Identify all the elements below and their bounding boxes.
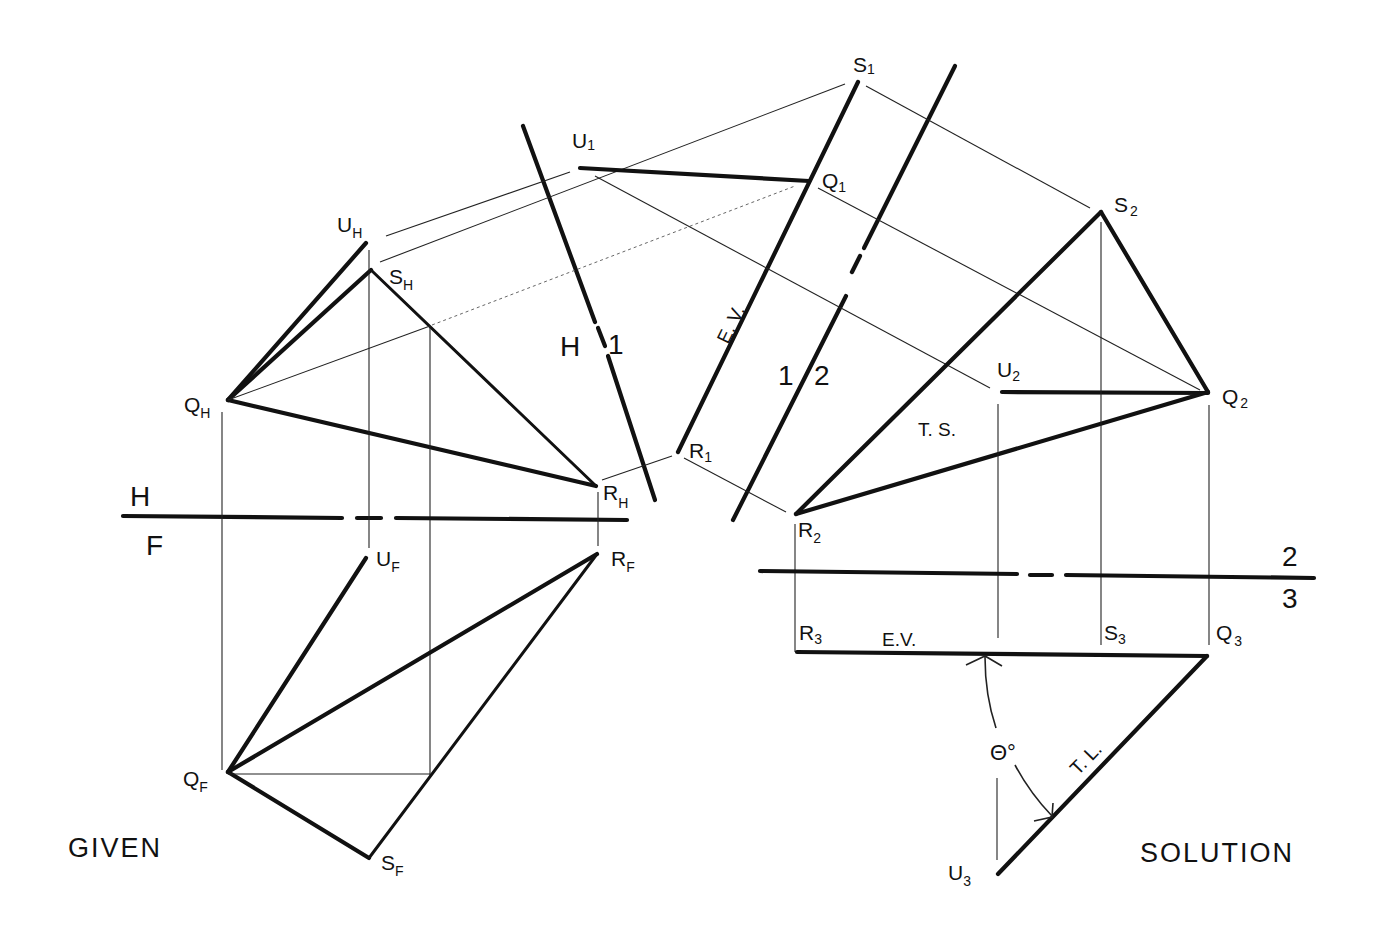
label-qh: QH xyxy=(184,393,210,421)
angle-theta-label: Θ° xyxy=(990,740,1016,765)
arrowhead-up-icon xyxy=(966,656,1002,666)
true-length-label: T. L. xyxy=(1066,738,1106,778)
front-view xyxy=(228,554,597,858)
label-r3: R3 xyxy=(799,621,822,647)
edge-view-r3-q3 xyxy=(797,652,1207,656)
fold-label-f: F xyxy=(146,530,163,561)
edge-s2-q2 xyxy=(1101,212,1208,392)
label-uf: UF xyxy=(376,547,400,575)
fold-label-1: 1 xyxy=(608,329,624,360)
descriptive-geometry-diagram: H F H 1 E. V. 1 xyxy=(0,0,1396,945)
fold-label-2: 2 xyxy=(814,360,830,391)
edge-u2-q2 xyxy=(1002,392,1208,393)
solution-title: SOLUTION xyxy=(1140,838,1294,868)
given-title: GIVEN xyxy=(68,833,162,863)
angle-arc-lower xyxy=(1015,765,1052,816)
label-u1: U1 xyxy=(572,129,595,153)
edge-qh-rh xyxy=(228,400,596,486)
edge-view-label: E.V. xyxy=(882,629,916,650)
label-r2: R2 xyxy=(798,518,821,546)
edge-qf-uf xyxy=(228,558,366,772)
label-r1: R1 xyxy=(689,439,712,465)
label-q1: Q1 xyxy=(822,169,846,195)
fold-line-h-f: H F xyxy=(123,481,627,561)
edge-qf-rf xyxy=(228,554,597,772)
fold-label-h: H xyxy=(560,331,580,362)
horizontal-view xyxy=(228,243,596,775)
edge-view-label: E. V. xyxy=(713,302,749,347)
label-u3: U3 xyxy=(948,861,971,889)
label-uh: UH xyxy=(337,213,362,241)
edge-qf-sf xyxy=(228,772,369,858)
label-s3: S3 xyxy=(1104,621,1126,647)
fold-label-3: 3 xyxy=(1282,583,1298,614)
fold-label-2: 2 xyxy=(1282,541,1298,572)
angle-arc-upper xyxy=(985,657,996,728)
label-s1: S1 xyxy=(853,53,875,77)
fold-label-h: H xyxy=(130,481,150,512)
projectors-h1 xyxy=(380,84,845,480)
true-shape-label: T. S. xyxy=(918,419,956,440)
label-sf: SF xyxy=(381,851,404,879)
label-qf: QF xyxy=(183,767,208,795)
edge-qh-uh xyxy=(228,243,366,400)
projectors-12 xyxy=(595,86,1200,512)
fold-line-1-2: 1 2 xyxy=(733,66,955,520)
label-rf: RF xyxy=(611,547,635,575)
fold-label-1: 1 xyxy=(778,360,794,391)
edge-u1-q1 xyxy=(580,168,809,181)
edge-qh-sh xyxy=(228,270,371,400)
label-q2: Q2 xyxy=(1222,385,1248,411)
label-s2: S2 xyxy=(1114,193,1138,219)
label-rh: RH xyxy=(603,481,628,511)
fold-line-2-3: 2 3 xyxy=(760,541,1314,614)
label-q3: Q3 xyxy=(1216,621,1242,649)
edge-sf-rf xyxy=(369,554,597,858)
label-u2: U2 xyxy=(997,358,1020,384)
edge-sh-rh xyxy=(371,270,596,486)
